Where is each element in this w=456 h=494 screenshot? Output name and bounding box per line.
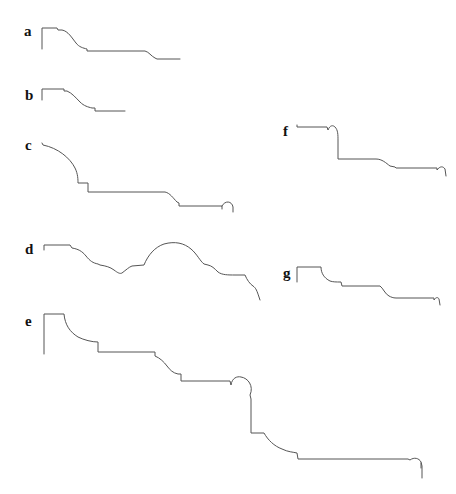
profile-d — [44, 243, 260, 300]
profile-e — [44, 314, 422, 478]
profile-f — [297, 125, 446, 176]
profiles-canvas — [0, 0, 456, 494]
profile-a — [42, 28, 180, 59]
profile-c — [42, 143, 233, 212]
profile-g — [297, 267, 440, 305]
profile-b — [42, 89, 125, 111]
